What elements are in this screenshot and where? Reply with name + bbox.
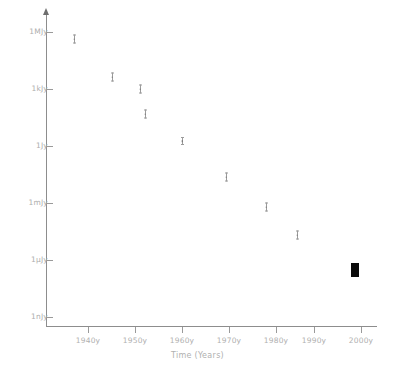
data-point [265, 203, 268, 212]
error-bar-cap [265, 211, 268, 212]
data-point [139, 85, 142, 94]
x-axis-tick [135, 327, 136, 333]
y-axis-tick-label: 1Jy [36, 142, 48, 150]
y-axis-tick-label: 1nJy [31, 313, 48, 321]
error-bar-cap [296, 239, 299, 240]
error-bar-cap [139, 93, 142, 94]
y-axis-line [46, 14, 47, 327]
y-axis-tick-label: 1µJy [31, 256, 48, 264]
marker-dot [111, 76, 113, 78]
marker-dot [265, 206, 267, 208]
marker-dot [181, 140, 183, 142]
x-axis-tick [276, 327, 277, 333]
x-axis-tick-label: 1960y [170, 337, 195, 345]
x-axis-tick-label: 1980y [264, 337, 289, 345]
x-axis-tick [182, 327, 183, 333]
x-axis-tick [88, 327, 89, 333]
y-axis-tick-label: 1kJy [31, 85, 48, 93]
x-axis-tick-label: 1950y [123, 337, 148, 345]
x-axis-tick-label: 1940y [76, 337, 101, 345]
error-bar-cap [73, 35, 76, 36]
marker-dot [144, 113, 146, 115]
error-bar-cap [144, 118, 147, 119]
error-bar-cap [181, 137, 184, 138]
error-bar-cap [111, 81, 114, 82]
marker-dot [73, 38, 75, 40]
marker-dot [225, 176, 227, 178]
x-axis-line [46, 326, 377, 327]
y-axis-tick-label: 1mJy [28, 199, 48, 207]
data-point [144, 110, 147, 119]
data-point [181, 137, 184, 145]
error-bar-cap [225, 181, 228, 182]
data-point [73, 35, 76, 44]
error-bar-cap [296, 231, 299, 232]
x-axis-tick [229, 327, 230, 333]
x-axis-title: Time (Years) [0, 351, 395, 360]
error-bar-cap [111, 73, 114, 74]
marker-dot [139, 88, 141, 90]
error-bar-cap [139, 85, 142, 86]
marker-dot [296, 234, 298, 236]
future-instrument-marker [351, 263, 359, 277]
x-axis-tick-label: 1990y [302, 337, 327, 345]
error-bar-cap [73, 43, 76, 44]
error-bar-cap [265, 203, 268, 204]
x-axis-tick [314, 327, 315, 333]
error-bar-cap [225, 173, 228, 174]
data-point [296, 231, 299, 240]
chart-figure: 1MJy 1kJy 1Jy 1mJy 1µJy 1nJy 1940y 1950y… [0, 0, 395, 377]
x-axis-tick-label: 2000y [349, 337, 374, 345]
x-axis-tick [361, 327, 362, 333]
data-point [111, 73, 114, 82]
data-point [225, 173, 228, 182]
error-bar-cap [144, 110, 147, 111]
error-bar-cap [181, 144, 184, 145]
x-axis-tick-label: 1970y [217, 337, 242, 345]
y-axis-tick-label: 1MJy [29, 28, 48, 36]
y-axis-arrow-icon [43, 8, 49, 15]
